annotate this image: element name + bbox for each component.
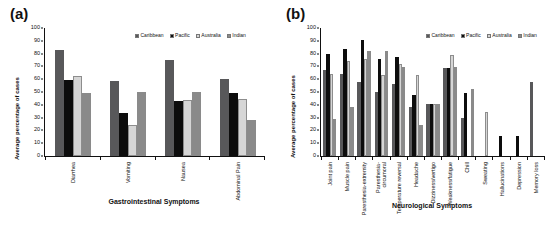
bar-slot xyxy=(505,28,508,156)
panel-a-y-tick-labels: 0102030405060708090100 xyxy=(24,28,40,156)
legend-swatch xyxy=(426,34,430,38)
bar xyxy=(247,120,256,156)
y-tick-label: 30 xyxy=(34,115,40,121)
y-tick-label: 60 xyxy=(310,76,316,82)
bar xyxy=(183,100,192,156)
y-tick-mark xyxy=(41,92,43,93)
legend-swatch xyxy=(196,34,200,38)
y-tick-mark xyxy=(41,156,43,157)
y-tick-mark xyxy=(317,117,319,118)
y-tick-mark xyxy=(41,28,43,29)
x-label-cell: Nausea xyxy=(155,160,210,220)
y-tick-mark xyxy=(41,40,43,41)
panel-b-y-axis-title: Average percentage of cases xyxy=(290,75,296,158)
bar-slot xyxy=(350,28,353,156)
bar-slot xyxy=(454,28,457,156)
legend-swatch xyxy=(461,34,465,38)
x-label-cell: Headache xyxy=(407,160,424,220)
legend-swatch xyxy=(135,34,139,38)
panel-b-y-tick-labels: 0102030405060708090100 xyxy=(300,28,316,156)
bar-slot xyxy=(367,28,370,156)
bar xyxy=(238,99,247,156)
bar-slot xyxy=(220,28,229,156)
bar-slot xyxy=(110,28,119,156)
panel-b-legend: CaribbeanPacificAustraliaIndian xyxy=(426,33,537,38)
x-label-cell: Sweating xyxy=(476,160,493,220)
bar xyxy=(350,107,353,156)
legend-swatch xyxy=(227,34,231,38)
bar-group xyxy=(155,28,210,156)
bar-group xyxy=(442,28,459,156)
bar-slot xyxy=(436,28,439,156)
panel-a-tag: (a) xyxy=(10,5,28,22)
y-tick-mark xyxy=(41,130,43,131)
y-tick-mark xyxy=(317,143,319,144)
y-tick-label: 60 xyxy=(34,76,40,82)
bar xyxy=(174,101,183,156)
y-tick-label: 90 xyxy=(34,38,40,44)
bar-group xyxy=(476,28,493,156)
x-tick-label: Sweating xyxy=(482,162,488,185)
x-tick-label: Joint pain xyxy=(327,162,333,186)
bar-group xyxy=(338,28,355,156)
bar-slot xyxy=(165,28,174,156)
y-tick-mark xyxy=(41,117,43,118)
panel-a-y-axis-title: Average percentage of cases xyxy=(14,77,20,160)
bar xyxy=(64,80,73,156)
x-label-cell: Chill xyxy=(459,160,476,220)
bar-group xyxy=(373,28,390,156)
y-tick-mark xyxy=(317,156,319,157)
x-label-cell: Depression xyxy=(511,160,528,220)
y-tick-label: 80 xyxy=(310,51,316,57)
bar xyxy=(229,93,238,156)
bar-group xyxy=(100,28,155,156)
x-tick-label: Paresthesia- circumoral xyxy=(376,162,387,193)
panel-b-x-tick-labels: Joint painMuscle painParesthesia-extremi… xyxy=(321,160,545,220)
y-tick-label: 10 xyxy=(310,140,316,146)
y-tick-label: 80 xyxy=(34,51,40,57)
bar-slot xyxy=(64,28,73,156)
bar-group xyxy=(493,28,510,156)
y-tick-mark xyxy=(41,53,43,54)
y-tick-mark xyxy=(41,66,43,67)
bar xyxy=(402,67,405,156)
y-tick-mark xyxy=(41,143,43,144)
bar-slot xyxy=(73,28,82,156)
legend-label: Australia xyxy=(201,33,220,38)
y-tick-mark xyxy=(317,130,319,131)
x-label-cell: Joint pain xyxy=(321,160,338,220)
y-tick-mark xyxy=(317,28,319,29)
legend-item: Australia xyxy=(196,33,221,38)
bar-slot xyxy=(82,28,91,156)
bar-group xyxy=(407,28,424,156)
panel-b-x-axis-title: Neurological Symptoms xyxy=(320,202,544,209)
panel-a-legend: CaribbeanPacificAustraliaIndian xyxy=(135,33,246,38)
bar-slot xyxy=(128,28,137,156)
bar-slot xyxy=(402,28,405,156)
bar-group xyxy=(355,28,372,156)
bar-slot xyxy=(385,28,388,156)
x-tick-label: Depression xyxy=(516,162,522,190)
bar-slot xyxy=(119,28,128,156)
legend-item: Caribbean xyxy=(426,33,455,38)
x-label-cell: Hallucinations xyxy=(493,160,510,220)
x-label-cell: Diarrhea xyxy=(45,160,100,220)
bar xyxy=(333,119,336,156)
y-tick-label: 20 xyxy=(310,128,316,134)
x-label-cell: Paresthesia-extremity xyxy=(355,160,372,220)
legend-label: Australia xyxy=(492,33,511,38)
bar xyxy=(55,50,64,156)
x-label-cell: Vomiting xyxy=(100,160,155,220)
bar-group xyxy=(210,28,265,156)
legend-swatch xyxy=(170,34,174,38)
x-label-cell: Abdominal Pain xyxy=(210,160,265,220)
y-tick-label: 0 xyxy=(37,153,40,159)
y-tick-label: 90 xyxy=(310,38,316,44)
y-tick-label: 40 xyxy=(310,102,316,108)
bar-group xyxy=(45,28,100,156)
bar xyxy=(192,92,201,156)
bar-group xyxy=(424,28,441,156)
y-tick-label: 40 xyxy=(34,102,40,108)
x-label-cell: Paresthesia- circumoral xyxy=(373,160,390,220)
y-tick-label: 0 xyxy=(313,153,316,159)
